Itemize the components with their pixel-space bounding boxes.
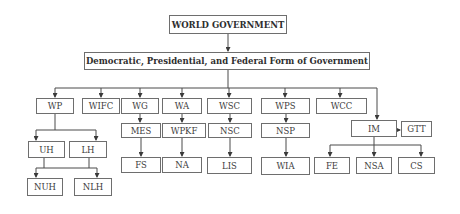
node-nsa: NSA xyxy=(356,157,392,174)
node-world-government: WORLD GOVERNMENT xyxy=(169,15,287,34)
node-wg: WG xyxy=(121,98,159,114)
node-nsc: NSC xyxy=(208,123,252,138)
node-nuh: NUH xyxy=(27,178,63,196)
node-cs: CS xyxy=(398,157,435,174)
node-wcc: WCC xyxy=(316,98,367,114)
node-nsp: NSP xyxy=(261,123,310,138)
node-wps: WPS xyxy=(261,98,310,114)
node-wp: WP xyxy=(36,98,74,114)
node-wsc: WSC xyxy=(207,98,252,114)
node-fe: FE xyxy=(314,157,350,174)
node-wia: WIA xyxy=(261,157,310,175)
org-chart-diagram: WORLD GOVERNMENT Democratic, Presidentia… xyxy=(0,0,460,214)
node-mes: MES xyxy=(121,123,161,138)
node-gtt: GTT xyxy=(401,121,432,137)
node-wifc: WIFC xyxy=(82,98,120,114)
node-im: IM xyxy=(351,120,397,137)
node-fs: FS xyxy=(121,157,161,173)
node-lis: LIS xyxy=(207,157,252,174)
node-na: NA xyxy=(162,157,202,173)
node-nlh: NLH xyxy=(74,178,112,196)
node-wpkf: WPKF xyxy=(162,123,206,138)
node-uh: UH xyxy=(28,141,65,158)
node-wa: WA xyxy=(162,98,202,114)
node-government-form: Democratic, Presidential, and Federal Fo… xyxy=(84,52,370,70)
node-lh: LH xyxy=(69,141,107,158)
